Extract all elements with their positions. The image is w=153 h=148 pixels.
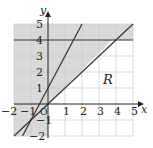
y-tick-minus-2: −2: [29, 130, 45, 143]
y-tick-2: 2: [36, 66, 43, 79]
x-tick-minus-2: −2: [1, 105, 17, 118]
x-tick-minus-1: −1: [20, 105, 36, 118]
region-label: R: [102, 72, 113, 87]
x-tick-3: 3: [97, 105, 104, 118]
y-tick-3: 3: [36, 50, 43, 63]
y-tick-4: 4: [36, 34, 43, 47]
y-tick-1: 1: [36, 82, 43, 95]
x-tick-2: 2: [80, 105, 87, 118]
graph: y x 5 4 3 2 1 −1 −2 −2 −1 O 1 2 3 4 5 R: [0, 0, 153, 148]
origin-label: O: [40, 107, 47, 117]
y-axis-label: y: [39, 4, 47, 17]
x-tick-4: 4: [114, 105, 121, 118]
x-tick-5: 5: [131, 105, 138, 118]
x-axis-label: x: [141, 103, 148, 116]
y-tick-5: 5: [36, 18, 43, 31]
x-tick-1: 1: [63, 105, 70, 118]
